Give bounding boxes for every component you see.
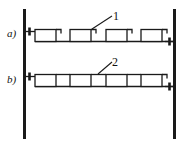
callout-2-label: 2 (112, 56, 118, 68)
row-b-assembly (24, 62, 175, 91)
technical-diagram: a) b) 1 2 (0, 0, 190, 151)
row-a-box-4 (141, 30, 167, 42)
row-a-box-3 (106, 30, 132, 42)
row-b-box-4 (141, 75, 167, 87)
row-b-box-3 (106, 75, 127, 87)
row-b-left-anchor-icon (24, 73, 35, 81)
callout-2-leader-line (98, 62, 112, 74)
callout-1-leader-line (92, 16, 112, 29)
row-a-left-anchor-icon (24, 28, 35, 36)
row-a-box-1 (35, 30, 61, 42)
diagram-canvas (0, 0, 190, 151)
row-a-assembly (24, 16, 175, 46)
row-b-box-1 (35, 75, 56, 87)
callout-1-label: 1 (113, 10, 119, 22)
row-b-box-2 (70, 75, 91, 87)
row-b-label: b) (7, 74, 16, 85)
row-a-box-2 (70, 30, 96, 42)
row-a-label: a) (7, 28, 16, 39)
